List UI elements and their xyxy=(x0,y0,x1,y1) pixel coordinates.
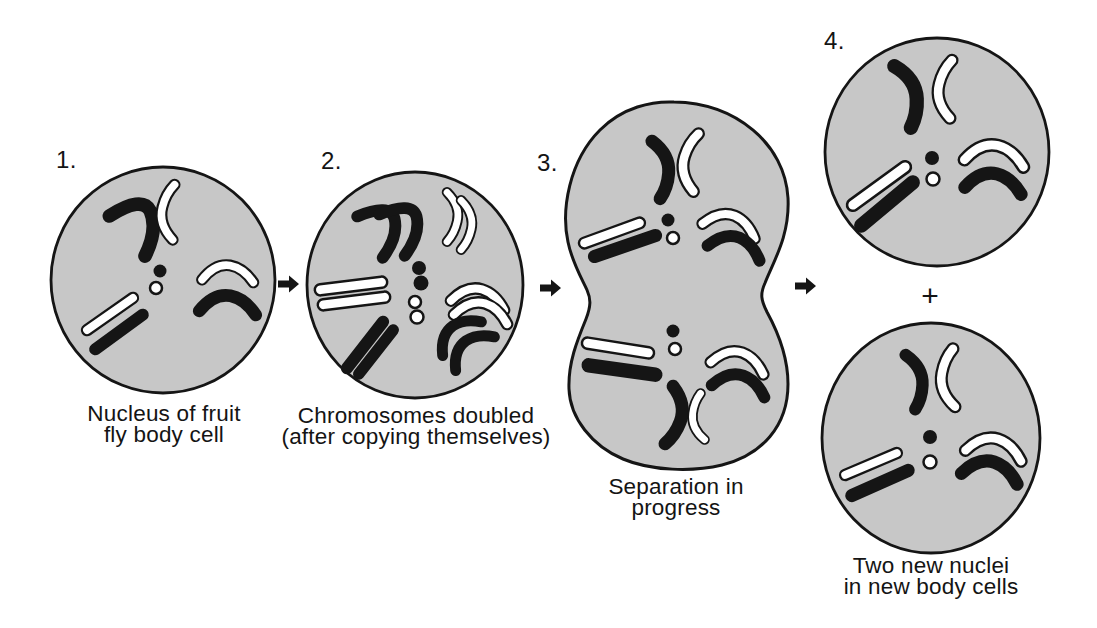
dot-chromosome-white xyxy=(409,296,421,308)
right-arrow-icon xyxy=(540,280,561,297)
plus-sign: + xyxy=(921,281,939,311)
dot-chromosome-black xyxy=(414,276,429,291)
cell-stage-2 xyxy=(307,172,523,398)
stage-3-caption: Separation in progress xyxy=(608,476,743,518)
right-arrow-icon xyxy=(795,278,816,295)
stage-4-caption: Two new nuclei in new body cells xyxy=(844,555,1019,597)
mitosis-diagram: 1. 2. 3. 4. Nucleus of fruit fly body ce… xyxy=(0,0,1097,628)
dot-chromosome-white xyxy=(924,456,937,469)
cell-stage-1 xyxy=(51,167,275,393)
stage-4-caption-line-1: Two new nuclei xyxy=(844,555,1019,576)
dot-chromosome-white xyxy=(927,173,940,186)
dot-chromosome-white xyxy=(411,311,424,324)
dot-chromosome-white xyxy=(667,232,679,244)
stage-1-caption-line-2: fly body cell xyxy=(87,424,240,445)
stage-2-number: 2. xyxy=(321,149,342,173)
stage-1-number: 1. xyxy=(56,148,77,172)
dot-chromosome-black xyxy=(412,261,426,275)
dot-chromosome-black xyxy=(662,214,675,227)
diagram-artwork xyxy=(0,0,1097,628)
stage-2-caption-line-2: (after copying themselves) xyxy=(281,426,550,447)
stage-3-caption-line-2: progress xyxy=(608,497,743,518)
stage-1-caption-line-1: Nucleus of fruit xyxy=(87,403,240,424)
stage-3-number: 3. xyxy=(537,151,558,175)
stage-4-caption-line-2: in new body cells xyxy=(844,576,1019,597)
cell-stage-4-bottom xyxy=(822,323,1040,553)
dot-chromosome-white xyxy=(669,343,681,355)
dot-chromosome-black xyxy=(923,430,937,444)
right-arrow-icon xyxy=(278,276,299,293)
stage-2-caption-line-1: Chromosomes doubled xyxy=(281,405,550,426)
dot-chromosome-black xyxy=(925,151,939,165)
dot-chromosome-white xyxy=(150,282,162,294)
stage-1-caption: Nucleus of fruit fly body cell xyxy=(87,403,240,445)
cell-stage-3-dividing xyxy=(566,102,789,469)
stage-3-caption-line-1: Separation in xyxy=(608,476,743,497)
stage-4-number: 4. xyxy=(824,29,845,53)
stage-2-caption: Chromosomes doubled (after copying thems… xyxy=(281,405,550,447)
dot-chromosome-black xyxy=(154,265,167,278)
cell-stage-4-top xyxy=(825,38,1049,266)
rod-chromosome-black xyxy=(589,365,656,374)
dot-chromosome-black xyxy=(667,325,680,338)
